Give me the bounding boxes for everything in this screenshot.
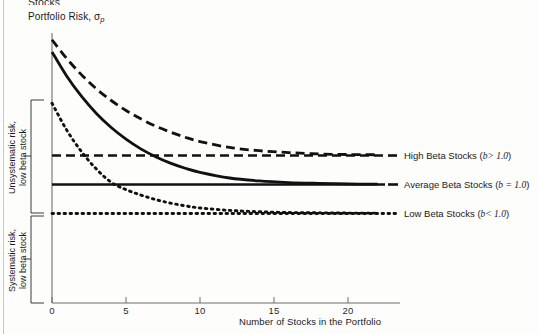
curve-high-beta-stocks (52, 40, 378, 155)
legend-condition-high-beta: b> 1.0 (483, 151, 508, 161)
curve-average-beta-stocks (52, 52, 378, 184)
x-axis-title: Number of Stocks in the Portfolio (239, 316, 381, 327)
legend-label-high-beta: High Beta Stocks (404, 150, 477, 161)
portfolio-risk-diversification-chart: Stocks Portfolio Risk, σp Unsystematic r… (0, 0, 538, 334)
legend-label-low-beta: Low Beta Stocks (404, 208, 475, 219)
x-axis-tick-label: 15 (269, 305, 280, 316)
bracket-systematic (24, 216, 44, 303)
legend-item-average-beta: Average Beta Stocks (b = 1.0) (404, 179, 529, 190)
x-axis-ticks (52, 297, 348, 303)
legend-condition-average-beta: b = 1.0 (498, 180, 526, 190)
legend-label-average-beta: Average Beta Stocks (404, 179, 493, 190)
bracket-unsystematic (24, 100, 44, 213)
x-axis-tick-label: 0 (49, 305, 54, 316)
plot-svg (0, 0, 538, 334)
x-axis-tick-label: 5 (123, 305, 128, 316)
legend-item-low-beta: Low Beta Stocks (b< 1.0) (404, 208, 509, 219)
x-axis-tick-label: 20 (343, 305, 354, 316)
legend-item-high-beta: High Beta Stocks (b> 1.0) (404, 150, 511, 161)
legend-condition-low-beta: b< 1.0 (481, 209, 506, 219)
x-axis-tick-label: 10 (195, 305, 206, 316)
